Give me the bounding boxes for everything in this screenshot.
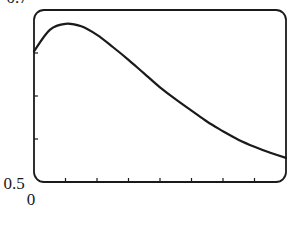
line-chart: 0.7 0.5 0: [0, 0, 293, 232]
y-axis-top-label: 0.7: [6, 0, 28, 7]
y-axis-bottom-label: 0.5: [3, 174, 24, 193]
data-curve: [34, 24, 286, 158]
plot-border: [34, 10, 286, 182]
plot-frame: [34, 10, 286, 182]
x-axis-origin-label: 0: [27, 190, 36, 209]
